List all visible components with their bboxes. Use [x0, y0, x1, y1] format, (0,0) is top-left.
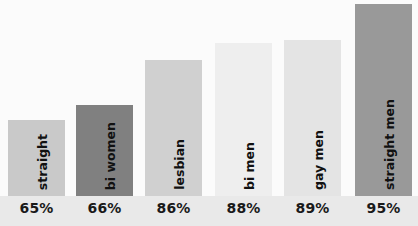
value-label-straight-men: 95%: [355, 200, 412, 216]
bar-label-straight-men: straight men: [355, 99, 412, 190]
value-label-bi-women: 66%: [76, 200, 133, 216]
bar-lesbian[interactable]: lesbian: [145, 60, 202, 196]
bar-bi-men[interactable]: bi men: [215, 43, 272, 196]
bar-label-line1-gay-men: gay men: [312, 130, 326, 190]
bar-label-line1-bi-men: bi men: [243, 142, 257, 190]
bar-label-line1-straight-women: straight: [36, 134, 50, 190]
bar-label-line1-lesbian: lesbian: [173, 139, 187, 190]
bar-label-bi-men: bi men: [215, 142, 272, 190]
bar-straight-men[interactable]: straight men: [355, 4, 412, 196]
bar-label-line1-straight-men: straight men: [383, 99, 397, 190]
bar-chart-figure: straight women bi women lesbian: [0, 0, 418, 226]
bar-label-lesbian: lesbian: [145, 139, 202, 190]
bar-label-straight-women: straight women: [8, 134, 65, 190]
value-label-gay-men: 89%: [284, 200, 341, 216]
bar-label-bi-women: bi women: [76, 122, 133, 190]
value-label-axis-strip: 65% 66% 86% 88% 89% 95%: [0, 196, 418, 226]
bar-bi-women[interactable]: bi women: [76, 105, 133, 196]
bar-gay-men[interactable]: gay men: [284, 40, 341, 196]
value-label-bi-men: 88%: [215, 200, 272, 216]
bar-label-gay-men: gay men: [284, 130, 341, 190]
bar-straight-women[interactable]: straight women: [8, 120, 65, 196]
chart-plot-area: straight women bi women lesbian: [0, 0, 418, 196]
value-label-straight-women: 65%: [8, 200, 65, 216]
bar-label-line1-bi-women: bi women: [104, 122, 118, 190]
value-label-lesbian: 86%: [145, 200, 202, 216]
